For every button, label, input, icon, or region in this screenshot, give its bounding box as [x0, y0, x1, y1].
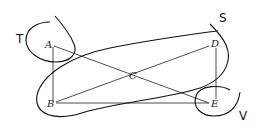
point-labels: A B C D E	[44, 38, 219, 109]
region-label-t: T	[15, 32, 24, 46]
point-label-c: C	[129, 70, 137, 81]
point-label-d: D	[210, 38, 219, 49]
point-label-b: B	[46, 98, 54, 109]
diagram-canvas: A B C D E T S V	[0, 0, 261, 129]
point-label-e: E	[210, 98, 219, 109]
region-label-v: V	[239, 109, 248, 123]
diagram-svg: A B C D E T S V	[0, 0, 261, 129]
point-label-a: A	[44, 39, 52, 50]
region-label-s: S	[219, 11, 227, 25]
